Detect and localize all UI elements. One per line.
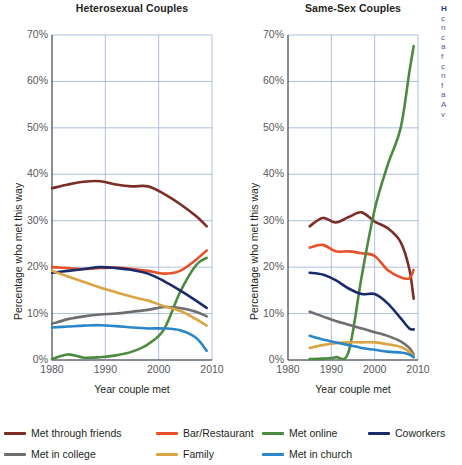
legend-swatch xyxy=(4,432,26,435)
legend-label: Met in church xyxy=(289,448,352,460)
y-tick-label: 30% xyxy=(6,214,48,226)
legend-item[interactable]: Family xyxy=(156,448,214,460)
figure-root: Heterosexual Couples Same-Sex Couples Pe… xyxy=(0,0,462,465)
series-line xyxy=(52,181,207,226)
legend: Met through friendsBar/RestaurantMet onl… xyxy=(4,424,462,465)
y-tick-label: 10% xyxy=(6,307,48,319)
y-tick-label: 20% xyxy=(6,260,48,272)
series-line xyxy=(52,307,207,324)
y-tick-label: 10% xyxy=(242,307,284,319)
x-axis-label-left: Year couple met xyxy=(52,383,212,395)
legend-row: Met through friendsBar/RestaurantMet onl… xyxy=(4,424,462,445)
legend-item[interactable]: Met in college xyxy=(4,448,96,460)
y-axis-label-right: Percentage who met this way xyxy=(248,183,260,320)
legend-label: Met through friends xyxy=(31,427,121,439)
x-tick-label: 1980 xyxy=(268,363,308,375)
legend-swatch xyxy=(262,453,284,456)
legend-swatch xyxy=(368,432,390,435)
legend-label: Family xyxy=(183,448,214,460)
legend-label: Met in college xyxy=(31,448,96,460)
side-caption: H cncafcnfaAv xyxy=(441,4,462,119)
chart-title-heterosexual: Heterosexual Couples xyxy=(52,2,212,14)
legend-label: Met online xyxy=(289,427,337,439)
y-tick-label: 70% xyxy=(242,28,284,40)
legend-item[interactable]: Bar/Restaurant xyxy=(156,427,254,439)
x-tick-label: 2010 xyxy=(398,363,438,375)
legend-swatch xyxy=(4,453,26,456)
legend-swatch xyxy=(156,453,178,456)
gridlines xyxy=(288,35,418,360)
side-caption-heading: H xyxy=(441,4,462,14)
legend-item[interactable]: Met online xyxy=(262,427,337,439)
series-line xyxy=(310,342,414,356)
legend-item[interactable]: Met through friends xyxy=(4,427,121,439)
x-tick-label: 1990 xyxy=(311,363,351,375)
legend-swatch xyxy=(262,432,284,435)
y-tick-label: 50% xyxy=(6,121,48,133)
x-tick-label: 1980 xyxy=(32,363,72,375)
y-tick-label: 40% xyxy=(242,167,284,179)
x-tick-label: 2010 xyxy=(192,363,232,375)
series-line xyxy=(310,212,414,298)
y-tick-label: 20% xyxy=(242,260,284,272)
chart-title-samesex: Same-Sex Couples xyxy=(288,2,418,14)
legend-swatch xyxy=(156,432,178,435)
x-axis-label-right: Year couple met xyxy=(288,383,418,395)
y-tick-label: 60% xyxy=(6,74,48,86)
y-axis-label-left: Percentage who met this way xyxy=(12,183,24,320)
y-tick-label: 40% xyxy=(6,167,48,179)
side-caption-body: cncafcnfaAv xyxy=(441,14,462,120)
x-tick-label: 1990 xyxy=(85,363,125,375)
x-tick-label: 2000 xyxy=(139,363,179,375)
legend-label: Coworkers xyxy=(395,427,445,439)
y-tick-label: 60% xyxy=(242,74,284,86)
series-line xyxy=(310,46,414,359)
y-tick-label: 30% xyxy=(242,214,284,226)
legend-label: Bar/Restaurant xyxy=(183,427,254,439)
y-tick-label: 70% xyxy=(6,28,48,40)
chart-plot-heterosexual xyxy=(52,35,212,360)
y-tick-label: 50% xyxy=(242,121,284,133)
chart-plot-samesex xyxy=(288,35,418,360)
legend-item[interactable]: Met in church xyxy=(262,448,352,460)
legend-item[interactable]: Coworkers xyxy=(368,427,445,439)
legend-row: Met in collegeFamilyMet in church xyxy=(4,445,462,465)
series-line xyxy=(52,325,207,351)
x-tick-label: 2000 xyxy=(355,363,395,375)
